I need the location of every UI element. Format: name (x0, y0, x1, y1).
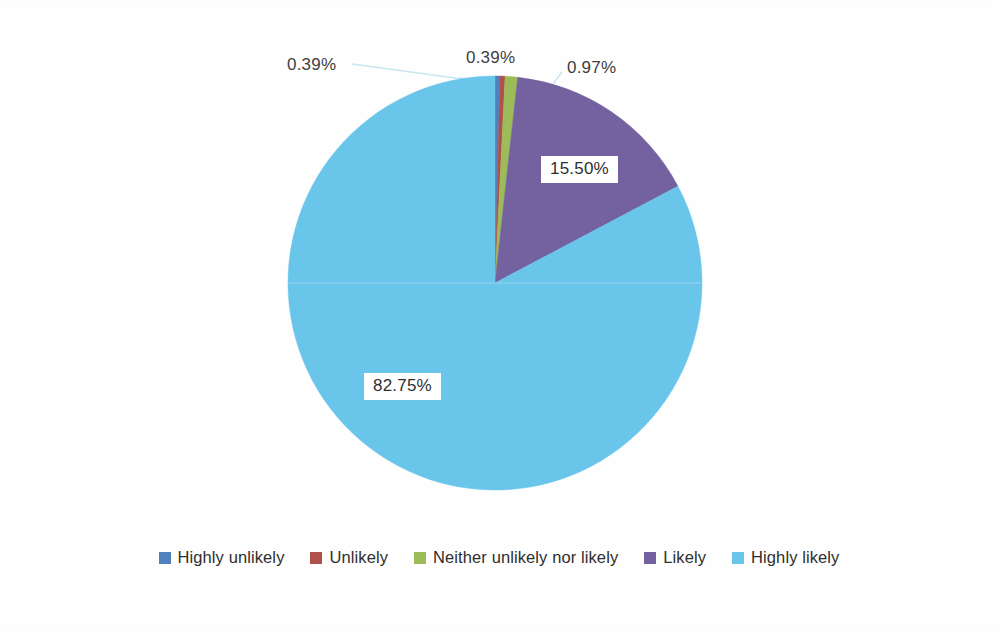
legend-item-unlikely[interactable]: Unlikely (310, 548, 388, 567)
legend-swatch-icon (732, 552, 744, 564)
chart-legend: Highly unlikelyUnlikelyNeither unlikely … (0, 548, 998, 567)
legend-item-label: Likely (663, 548, 706, 567)
legend-item-highly-likely[interactable]: Highly likely (732, 548, 839, 567)
callout-label-unlikely: 0.39% (466, 48, 515, 68)
legend-item-label: Unlikely (329, 548, 388, 567)
legend-item-neither-unlikely-nor-likely[interactable]: Neither unlikely nor likely (414, 548, 618, 567)
legend-swatch-icon (414, 552, 426, 564)
legend-item-label: Highly likely (751, 548, 839, 567)
pie-chart-figure: 0.39% 0.39% 0.97% 15.50% 82.75% Highly u… (0, 0, 998, 631)
callout-label-neither: 0.97% (567, 58, 616, 78)
legend-swatch-icon (310, 552, 322, 564)
legend-item-highly-unlikely[interactable]: Highly unlikely (159, 548, 285, 567)
slice-label-highly-likely: 82.75% (364, 373, 441, 400)
legend-item-likely[interactable]: Likely (644, 548, 706, 567)
legend-item-label: Highly unlikely (178, 548, 285, 567)
pie-svg (0, 0, 998, 530)
callout-label-highly-unlikely: 0.39% (287, 55, 336, 75)
pie-plot-area: 0.39% 0.39% 0.97% 15.50% 82.75% (0, 0, 998, 530)
slice-label-likely: 15.50% (541, 156, 618, 183)
legend-swatch-icon (644, 552, 656, 564)
legend-swatch-icon (159, 552, 171, 564)
legend-item-label: Neither unlikely nor likely (433, 548, 618, 567)
page-edge-bottom (0, 621, 998, 631)
